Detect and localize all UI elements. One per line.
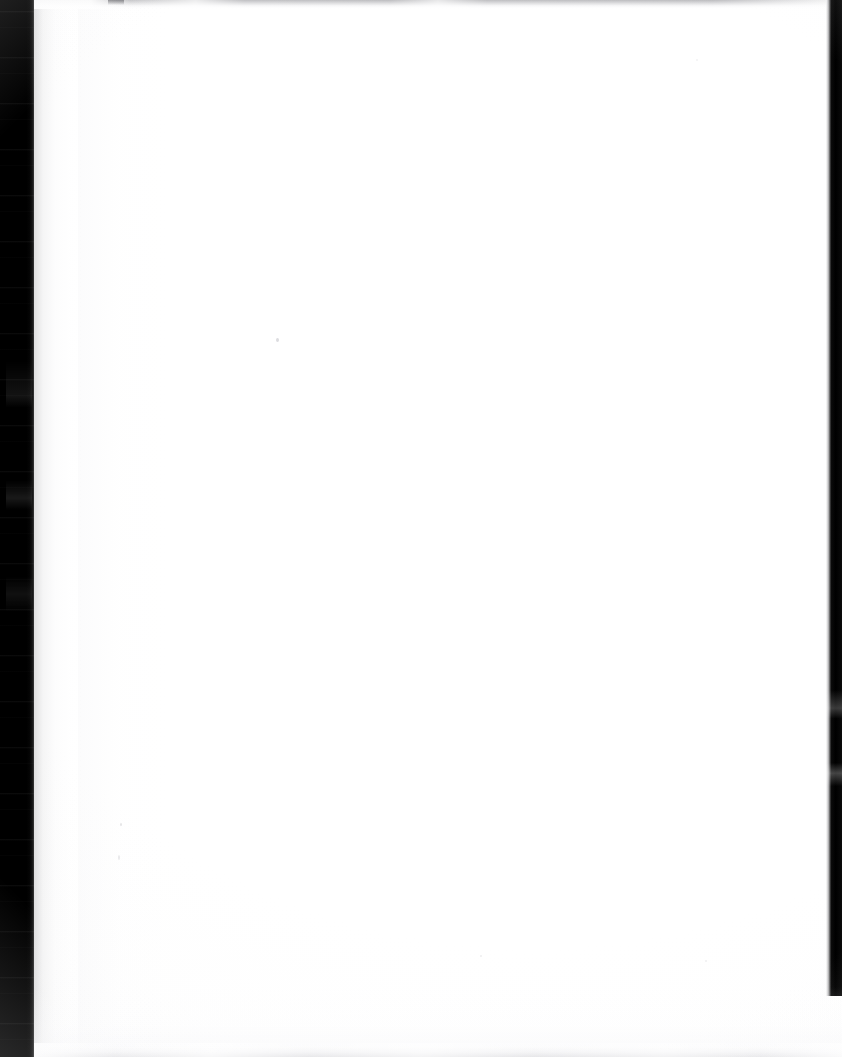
paper-surface xyxy=(34,0,842,1057)
scanned-page xyxy=(0,0,842,1057)
gutter-streak-artifacts xyxy=(0,0,34,1057)
right-dark-edge-strip xyxy=(826,0,842,996)
left-binding-gutter xyxy=(0,0,34,1057)
page-content-area xyxy=(144,90,784,970)
